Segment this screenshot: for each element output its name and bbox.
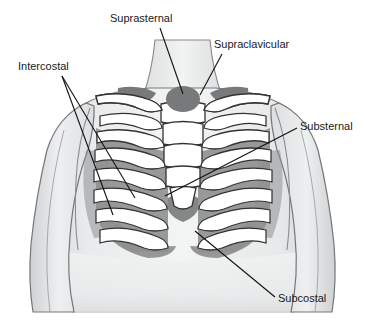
label-suprasternal: Suprasternal	[110, 12, 172, 24]
label-intercostal: Intercostal	[18, 60, 69, 72]
chest-retractions-diagram: Suprasternal Supraclavicular Intercostal…	[0, 0, 365, 325]
label-supraclavicular: Supraclavicular	[214, 38, 290, 50]
label-subcostal: Subcostal	[278, 292, 326, 304]
suprasternal-notch-shading	[166, 86, 200, 112]
label-substernal: Substernal	[300, 120, 353, 132]
xiphoid-process	[170, 187, 196, 210]
illustration-root: Suprasternal Supraclavicular Intercostal…	[0, 0, 365, 325]
